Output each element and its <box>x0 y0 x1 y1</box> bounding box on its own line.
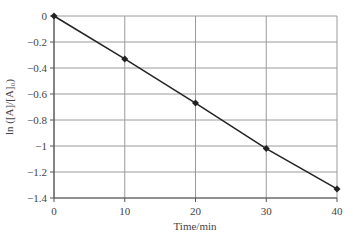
y-tick-label: −1.2 <box>27 166 47 178</box>
x-axis-ticks: 010203040 <box>51 198 343 217</box>
diamond-marker <box>51 13 58 20</box>
line-chart: 0−0.2−0.4−0.6−0.8−1−1.2−1.4 010203040 Ti… <box>0 0 353 241</box>
x-tick-label: 10 <box>119 205 131 217</box>
x-tick-label: 40 <box>332 205 344 217</box>
y-tick-label: 0 <box>42 10 48 22</box>
y-tick-label: −0.4 <box>27 62 47 74</box>
diamond-marker <box>121 55 128 62</box>
y-tick-label: −0.6 <box>27 88 47 100</box>
x-tick-label: 0 <box>51 205 57 217</box>
y-axis-title: ln ([A]/[A]₀) <box>3 79 16 135</box>
x-tick-label: 20 <box>190 205 202 217</box>
x-axis-title: Time/min <box>174 220 217 232</box>
y-tick-label: −0.2 <box>27 36 47 48</box>
y-tick-label: −0.8 <box>27 114 47 126</box>
gridlines <box>54 16 337 198</box>
diamond-marker <box>334 185 341 192</box>
y-tick-label: −1 <box>35 140 47 152</box>
y-axis-ticks: 0−0.2−0.4−0.6−0.8−1−1.2−1.4 <box>27 10 54 204</box>
y-tick-label: −1.4 <box>27 192 47 204</box>
x-tick-label: 30 <box>261 205 273 217</box>
